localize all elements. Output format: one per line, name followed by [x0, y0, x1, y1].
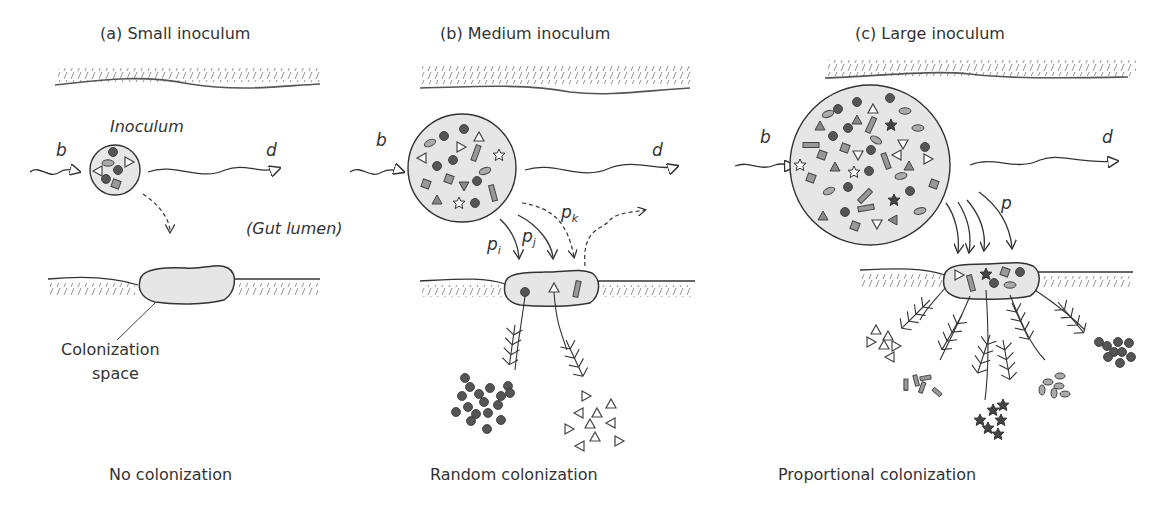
panel-a [30, 68, 320, 340]
death-symbol-a: d [266, 140, 277, 160]
colonized-dots-cluster [452, 374, 515, 434]
colonized-rods-cluster [904, 375, 942, 397]
panel-b-title: (b) Medium inoculum [440, 24, 610, 43]
prob-i-label: pi [487, 234, 501, 257]
prob-p-label: p [1001, 193, 1012, 213]
panel-a-title: (a) Small inoculum [100, 24, 250, 43]
prob-j-label: pj [522, 226, 536, 249]
colonized-triangles-cluster [565, 391, 624, 451]
panel-b [350, 66, 695, 451]
panel-c [735, 60, 1136, 440]
inoculum-label: Inoculum [110, 117, 184, 136]
birth-symbol-c: b [760, 127, 771, 147]
colonized-triangles-cluster [867, 325, 901, 362]
birth-symbol-a: b [56, 140, 67, 160]
birth-symbol-b: b [376, 130, 387, 150]
panel-b-outcome: Random colonization [430, 465, 598, 484]
colonization-space-label-line1: Colonization [61, 340, 160, 359]
panel-a-outcome: No colonization [109, 465, 232, 484]
prob-k-label: pk [561, 202, 578, 225]
death-symbol-b: d [652, 140, 663, 160]
death-symbol-c: d [1102, 127, 1113, 147]
colonized-dots-cluster [1095, 338, 1136, 368]
panel-c-outcome: Proportional colonization [778, 465, 976, 484]
gut-lumen-label: (Gut lumen) [246, 219, 343, 238]
panel-c-title: (c) Large inoculum [855, 24, 1005, 43]
diagram-canvas [0, 0, 1163, 511]
colonized-ellipses-cluster [1039, 373, 1070, 398]
colonized-stars-cluster [974, 399, 1009, 440]
colonization-space-label-line2: space [92, 364, 139, 383]
